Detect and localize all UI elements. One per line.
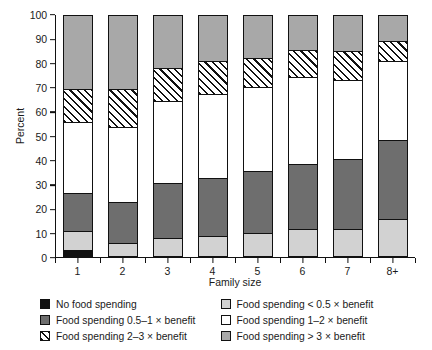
legend-label: No food spending xyxy=(56,299,137,310)
segment-gt-three-benefit-2[interactable] xyxy=(109,16,137,90)
x-minor-tick-6 xyxy=(325,258,326,263)
segment-two-to-three-benefit-7[interactable] xyxy=(334,52,362,81)
x-minor-tick-8 xyxy=(415,258,416,263)
segment-lt-half-benefit-7[interactable] xyxy=(334,230,362,256)
segment-two-to-three-benefit-8+[interactable] xyxy=(379,42,407,61)
legend-swatch-icon xyxy=(40,299,50,309)
x-tick-8+: 8+ xyxy=(378,258,408,277)
y-axis-label: Percent xyxy=(14,86,26,166)
y-tick-0: 0 xyxy=(0,253,55,264)
legend-item-3[interactable]: Food spending 1–2 × benefit xyxy=(221,315,396,326)
legend-item-0[interactable]: No food spending xyxy=(40,299,215,310)
x-tick-3: 3 xyxy=(153,258,183,277)
bar-group xyxy=(56,15,415,257)
segment-two-to-three-benefit-3[interactable] xyxy=(154,69,182,103)
bar-8+[interactable] xyxy=(378,15,408,257)
bar-2[interactable] xyxy=(108,15,138,257)
segment-one-to-two-benefit-2[interactable] xyxy=(109,128,137,204)
segment-half-to-one-benefit-8+[interactable] xyxy=(379,141,407,220)
legend-swatch-icon xyxy=(221,315,231,325)
segment-one-to-two-benefit-4[interactable] xyxy=(199,95,227,179)
segment-gt-three-benefit-8+[interactable] xyxy=(379,16,407,42)
segment-lt-half-benefit-3[interactable] xyxy=(154,239,182,256)
segment-gt-three-benefit-5[interactable] xyxy=(244,16,272,59)
y-tick-50: 50 xyxy=(0,131,55,142)
segment-lt-half-benefit-5[interactable] xyxy=(244,234,272,256)
segment-one-to-two-benefit-5[interactable] xyxy=(244,88,272,172)
segment-one-to-two-benefit-7[interactable] xyxy=(334,81,362,160)
x-minor-tick-1 xyxy=(100,258,101,263)
x-tick-6: 6 xyxy=(288,258,318,277)
segment-half-to-one-benefit-3[interactable] xyxy=(154,184,182,239)
x-tick-7: 7 xyxy=(333,258,363,277)
segment-lt-half-benefit-2[interactable] xyxy=(109,244,137,256)
segment-no-food-spending-1[interactable] xyxy=(64,251,92,256)
legend-item-4[interactable]: Food spending 2–3 × benefit xyxy=(40,331,215,342)
x-tick-4: 4 xyxy=(198,258,228,277)
x-minor-tick-4 xyxy=(235,258,236,263)
legend-label: Food spending > 3 × benefit xyxy=(237,331,365,342)
segment-two-to-three-benefit-1[interactable] xyxy=(64,90,92,122)
segment-lt-half-benefit-6[interactable] xyxy=(289,230,317,256)
legend-item-2[interactable]: Food spending 0.5–1 × benefit xyxy=(40,315,215,326)
legend-label: Food spending 1–2 × benefit xyxy=(237,315,368,326)
legend-swatch-icon xyxy=(221,331,231,341)
x-tick-5: 5 xyxy=(243,258,273,277)
segment-one-to-two-benefit-6[interactable] xyxy=(289,78,317,164)
x-minor-tick-2 xyxy=(145,258,146,263)
legend-label: Food spending 0.5–1 × benefit xyxy=(56,315,195,326)
x-tick-1: 1 xyxy=(63,258,93,277)
bar-5[interactable] xyxy=(243,15,273,257)
segment-two-to-three-benefit-6[interactable] xyxy=(289,51,317,79)
bar-6[interactable] xyxy=(288,15,318,257)
legend-label: Food spending 2–3 × benefit xyxy=(56,331,187,342)
y-tick-60: 60 xyxy=(0,107,55,118)
x-minor-tick-7 xyxy=(370,258,371,263)
segment-gt-three-benefit-4[interactable] xyxy=(199,16,227,62)
segment-gt-three-benefit-7[interactable] xyxy=(334,16,362,52)
y-tick-20: 20 xyxy=(0,204,55,215)
segment-half-to-one-benefit-5[interactable] xyxy=(244,172,272,234)
x-tick-2: 2 xyxy=(108,258,138,277)
chart-legend: No food spendingFood spending < 0.5 × be… xyxy=(40,296,395,346)
legend-label: Food spending < 0.5 × benefit xyxy=(237,299,374,310)
y-tick-10: 10 xyxy=(0,228,55,239)
segment-one-to-two-benefit-8+[interactable] xyxy=(379,62,407,141)
y-tick-30: 30 xyxy=(0,180,55,191)
y-tick-100: 100 xyxy=(0,10,55,21)
segment-half-to-one-benefit-2[interactable] xyxy=(109,203,137,244)
segment-two-to-three-benefit-2[interactable] xyxy=(109,90,137,127)
legend-item-1[interactable]: Food spending < 0.5 × benefit xyxy=(221,299,396,310)
segment-gt-three-benefit-6[interactable] xyxy=(289,16,317,51)
segment-half-to-one-benefit-1[interactable] xyxy=(64,194,92,232)
y-tick-80: 80 xyxy=(0,58,55,69)
legend-item-5[interactable]: Food spending > 3 × benefit xyxy=(221,331,396,342)
segment-lt-half-benefit-1[interactable] xyxy=(64,232,92,251)
segment-half-to-one-benefit-4[interactable] xyxy=(199,179,227,237)
segment-half-to-one-benefit-6[interactable] xyxy=(289,165,317,230)
y-tick-40: 40 xyxy=(0,156,55,167)
y-tick-90: 90 xyxy=(0,34,55,45)
segment-lt-half-benefit-8+[interactable] xyxy=(379,220,407,256)
segment-gt-three-benefit-1[interactable] xyxy=(64,16,92,90)
legend-swatch-icon xyxy=(221,299,231,309)
x-minor-tick-3 xyxy=(190,258,191,263)
bar-3[interactable] xyxy=(153,15,183,257)
legend-swatch-icon xyxy=(40,331,50,341)
segment-one-to-two-benefit-1[interactable] xyxy=(64,123,92,194)
segment-lt-half-benefit-4[interactable] xyxy=(199,237,227,256)
segment-two-to-three-benefit-4[interactable] xyxy=(199,62,227,96)
y-axis: 0102030405060708090100 xyxy=(0,15,55,258)
segment-two-to-three-benefit-5[interactable] xyxy=(244,59,272,88)
legend-swatch-icon xyxy=(40,315,50,325)
plot-area xyxy=(55,15,415,258)
chart-root: 0102030405060708090100 Percent 12345678+… xyxy=(0,0,432,350)
bar-1[interactable] xyxy=(63,15,93,257)
bar-4[interactable] xyxy=(198,15,228,257)
y-tick-70: 70 xyxy=(0,83,55,94)
x-minor-tick-5 xyxy=(280,258,281,263)
bar-7[interactable] xyxy=(333,15,363,257)
segment-gt-three-benefit-3[interactable] xyxy=(154,16,182,69)
segment-one-to-two-benefit-3[interactable] xyxy=(154,102,182,184)
segment-half-to-one-benefit-7[interactable] xyxy=(334,160,362,230)
